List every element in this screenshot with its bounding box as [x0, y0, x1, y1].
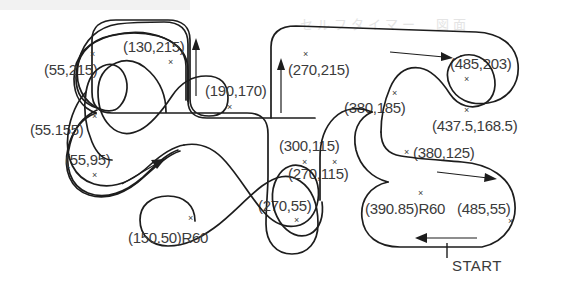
direction-arrow-top-head [441, 52, 453, 61]
segment-right-lower [362, 132, 515, 247]
segment-right-top [271, 26, 518, 118]
segment-right-inner-join [355, 112, 388, 182]
direction-arrow-top-line [390, 52, 444, 57]
segment-bottom-left-s [184, 144, 318, 226]
diagram-canvas: セルフタイマー 図面 [0, 0, 571, 287]
segment-left-upper [77, 22, 188, 160]
segment-centre-connector [188, 101, 315, 118]
direction-arrow-270-215-head [277, 58, 285, 70]
direction-arrow-bottom-left-line [122, 164, 156, 184]
toolpath-render [0, 0, 571, 287]
direction-arrow-bottom-left-head [151, 159, 165, 169]
segment-centre-right-join [320, 109, 372, 200]
direction-arrow-190-170-head [192, 38, 200, 50]
direction-arrow-mid-right-head [484, 173, 497, 182]
direction-arrow-start-head [415, 233, 427, 243]
segment-right-mid-s [381, 55, 495, 132]
direction-arrow-mid-right-line [437, 172, 488, 178]
